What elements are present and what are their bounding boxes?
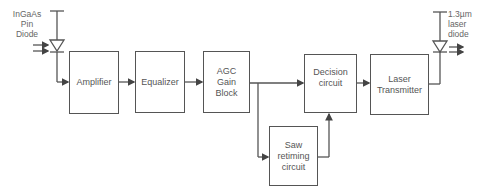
agc-label: AGC Gain Block	[207, 66, 247, 99]
equalizer-label: Equalizer	[141, 77, 179, 88]
amplifier-label: Amplifier	[76, 77, 111, 88]
label-line: diode	[448, 29, 482, 39]
equalizer-block: Equalizer	[135, 51, 185, 113]
output-diode-label: 1.3µm laser diode	[448, 9, 482, 39]
saw-label: Saw retiming circuit	[274, 140, 314, 173]
label-line: Diode	[8, 29, 46, 39]
label-line: laser	[448, 19, 482, 29]
input-diode-label: InGaAs Pin Diode	[8, 9, 46, 39]
amplifier-block: Amplifier	[69, 51, 119, 114]
label-line: InGaAs	[8, 9, 46, 19]
label-line: Pin	[8, 19, 46, 29]
laser-transmitter-block: Laser Transmitter	[370, 54, 429, 115]
laser-transmitter-label: Laser Transmitter	[374, 74, 426, 96]
decision-label: Decision circuit	[311, 67, 351, 89]
decision-circuit-block: Decision circuit	[304, 54, 357, 113]
label-line: 1.3µm	[448, 9, 482, 19]
saw-retiming-block: Saw retiming circuit	[269, 126, 318, 186]
agc-gain-block: AGC Gain Block	[203, 51, 250, 113]
